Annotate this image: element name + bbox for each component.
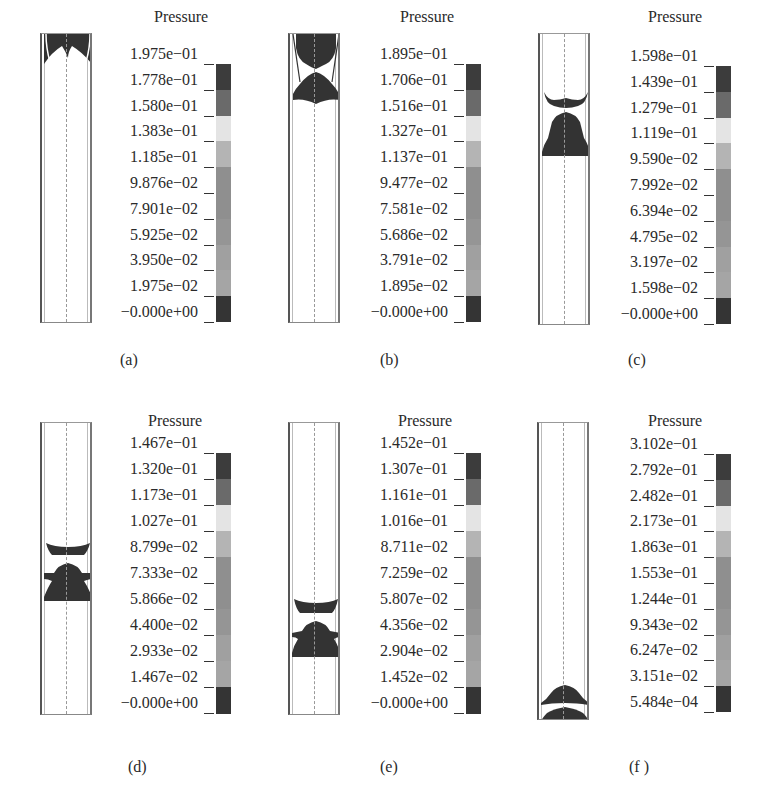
colorbar-tick <box>454 661 464 662</box>
colorbar-segment <box>716 480 731 506</box>
colorbar-label: −0.000e+00 <box>121 304 198 320</box>
colorbar-segment <box>216 193 231 219</box>
colorbar <box>466 64 481 322</box>
colorbar-tick <box>704 143 714 144</box>
colorbar-tick <box>704 583 714 584</box>
colorbar-tick <box>454 635 464 636</box>
colorbar <box>466 453 481 713</box>
colorbar-label: 3.791e−02 <box>380 252 448 268</box>
colorbar-label: 9.590e−02 <box>630 151 698 167</box>
colorbar-label: 1.027e−01 <box>130 513 198 529</box>
colorbar-tick <box>204 322 214 323</box>
colorbar-label: 1.863e−01 <box>630 539 698 555</box>
colorbar-segment <box>216 141 231 167</box>
colorbar-segment <box>216 296 231 322</box>
colorbar-label: 6.394e−02 <box>630 203 698 219</box>
colorbar-label: 1.895e−01 <box>380 46 448 62</box>
panel-b: Pressure 1.895e−01 1.706e−01 1.516e−01 1… <box>288 0 538 390</box>
colorbar-segment <box>716 66 731 92</box>
panel-d: Pressure 1.467e−01 1.320e−01 1.173e−01 1… <box>40 400 290 789</box>
colorbar-tick <box>204 167 214 168</box>
colorbar-segment <box>216 245 231 271</box>
colorbar-label: 1.452e−01 <box>380 435 448 451</box>
colorbar-segment <box>716 454 731 480</box>
colorbar-label: 3.102e−01 <box>630 436 698 452</box>
tube-contour-plot <box>288 33 340 323</box>
colorbar-segment <box>716 660 731 686</box>
colorbar-tick <box>454 531 464 532</box>
colorbar-tick <box>704 686 714 687</box>
colorbar-tick <box>204 453 214 454</box>
centerline <box>314 34 315 322</box>
colorbar-tick <box>704 557 714 558</box>
colorbar-label: 1.137e−01 <box>380 149 448 165</box>
colorbar-labels: 1.975e−01 1.778e−01 1.580e−01 1.383e−01 … <box>98 0 198 300</box>
colorbar-label: 7.992e−02 <box>630 177 698 193</box>
colorbar-tick <box>454 687 464 688</box>
colorbar-tick <box>454 322 464 323</box>
colorbar-tick <box>204 116 214 117</box>
colorbar-segment <box>216 479 231 506</box>
colorbar-label: 1.320e−01 <box>130 461 198 477</box>
colorbar-segment <box>716 506 731 532</box>
colorbar-label: −0.000e+00 <box>121 695 198 711</box>
pressure-field-shape <box>290 423 340 715</box>
subfigure-caption: (a) <box>120 351 138 369</box>
colorbar-segment <box>716 635 731 661</box>
colorbar-segment <box>466 609 481 636</box>
colorbar-tick <box>204 193 214 194</box>
colorbar-tick <box>454 90 464 91</box>
colorbar-label: 8.799e−02 <box>130 539 198 555</box>
colorbar-segment <box>466 687 481 714</box>
colorbar-label: 2.792e−01 <box>630 462 698 478</box>
colorbar-label: 3.197e−02 <box>630 254 698 270</box>
colorbar-label: 1.598e−02 <box>630 280 698 296</box>
colorbar-segment <box>466 90 481 116</box>
colorbar-segment <box>466 193 481 219</box>
colorbar-label: 1.553e−01 <box>630 565 698 581</box>
colorbar-tick <box>704 480 714 481</box>
colorbar-tick <box>454 557 464 558</box>
colorbar-segment <box>466 219 481 245</box>
colorbar-labels: 1.452e−01 1.307e−01 1.161e−01 1.016e−01 … <box>348 400 448 700</box>
colorbar-label: 1.452e−02 <box>380 669 448 685</box>
colorbar-label: 1.778e−01 <box>130 72 198 88</box>
colorbar-segment <box>716 557 731 583</box>
colorbar-tick <box>454 219 464 220</box>
colorbar-label: 2.482e−01 <box>630 488 698 504</box>
colorbar-label: 4.795e−02 <box>630 229 698 245</box>
colorbar-label: 1.383e−01 <box>130 123 198 139</box>
pressure-field-shape <box>539 423 589 720</box>
panel-e: Pressure 1.452e−01 1.307e−01 1.161e−01 1… <box>288 400 538 789</box>
colorbar-tick <box>704 609 714 610</box>
colorbar-segment <box>466 557 481 584</box>
subfigure-caption: (e) <box>380 758 398 776</box>
colorbar-tick <box>454 296 464 297</box>
colorbar <box>716 454 731 712</box>
colorbar-label: 9.343e−02 <box>630 617 698 633</box>
colorbar-label: 2.933e−02 <box>130 643 198 659</box>
colorbar-segment <box>716 298 731 324</box>
colorbar-label: 1.467e−01 <box>130 435 198 451</box>
colorbar-tick <box>204 219 214 220</box>
colorbar-segment <box>466 141 481 167</box>
colorbar-tick <box>454 583 464 584</box>
colorbar-label: 2.904e−02 <box>380 643 448 659</box>
colorbar-tick <box>454 505 464 506</box>
colorbar-segment <box>466 635 481 662</box>
tube-contour-plot <box>40 33 92 323</box>
colorbar-label: 1.016e−01 <box>380 513 448 529</box>
colorbar-segment <box>716 92 731 118</box>
colorbar <box>716 66 731 324</box>
colorbar-segment <box>216 167 231 193</box>
colorbar-tick <box>454 270 464 271</box>
colorbar-segment <box>716 169 731 195</box>
subfigure-caption: (d) <box>128 758 147 776</box>
colorbar-segment <box>716 583 731 609</box>
colorbar-segment <box>466 531 481 558</box>
colorbar-tick <box>204 557 214 558</box>
colorbar-label: 4.400e−02 <box>130 617 198 633</box>
colorbar-label: 1.307e−01 <box>380 461 448 477</box>
centerline <box>66 423 67 714</box>
colorbar-labels: 1.895e−01 1.706e−01 1.516e−01 1.327e−01 … <box>348 0 448 300</box>
